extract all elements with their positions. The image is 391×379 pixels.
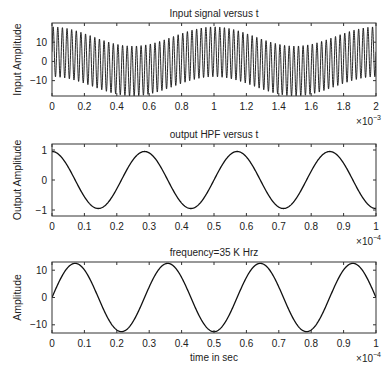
input-signal-xtick-label: 1.2	[239, 101, 253, 112]
input-signal-xtick-label: 1.6	[304, 101, 318, 112]
frequency-35k-ytick-label: 0	[41, 292, 47, 303]
output-hpf-xtick-label: 1	[373, 221, 379, 232]
input-signal-xtick-label: 0.8	[175, 101, 189, 112]
frequency-35k-xtick-label: 0.8	[304, 338, 318, 349]
frequency-35k-xtick-label: 0	[49, 338, 55, 349]
input-signal-title: Input signal versus t	[170, 8, 259, 19]
frequency-35k-x-exponent: ×10−4	[356, 351, 381, 364]
input-signal-xtick-label: 1.4	[272, 101, 286, 112]
frequency-35k-ytick-label: −10	[30, 319, 47, 330]
frequency-35k-xtick-label: 0.7	[272, 338, 286, 349]
output-hpf-x-exponent: ×10−4	[356, 234, 381, 247]
frequency-35k-xtick-label: 0.4	[175, 338, 189, 349]
output-hpf-ytick-label: −1	[36, 205, 48, 216]
output-hpf-title: output HPF versus t	[170, 129, 259, 140]
output-hpf-ytick-label: 1	[41, 145, 47, 156]
output-hpf-xtick-label: 0.2	[110, 221, 124, 232]
frequency-35k-title: frequency=35 K Hrz	[170, 247, 259, 258]
output-hpf-curve	[52, 152, 376, 209]
input-signal-xtick-label: 1	[211, 101, 217, 112]
output-hpf-xtick-label: 0.1	[77, 221, 91, 232]
frequency-35k-xtick-label: 0.3	[142, 338, 156, 349]
frequency-35k-xlabel: time in sec	[190, 352, 238, 363]
output-hpf-xtick-label: 0.9	[337, 221, 351, 232]
frequency-35k-xtick-label: 0.2	[110, 338, 124, 349]
input-signal-ytick-label: −10	[30, 75, 47, 86]
frequency-35k-xtick-label: 0.5	[207, 338, 221, 349]
output-hpf-axes: 00.10.20.30.40.50.60.70.80.91−101output …	[11, 129, 381, 247]
output-hpf-xtick-label: 0.8	[304, 221, 318, 232]
input-signal-xtick-label: 0.4	[110, 101, 124, 112]
output-hpf-xtick-label: 0.3	[142, 221, 156, 232]
input-signal-xtick-label: 0	[49, 101, 55, 112]
input-signal-axes: 00.20.40.60.811.21.41.61.82−10010Input s…	[11, 8, 381, 127]
output-hpf-xtick-label: 0.5	[207, 221, 221, 232]
output-hpf-xtick-label: 0.7	[272, 221, 286, 232]
input-signal-xtick-label: 0.2	[77, 101, 91, 112]
input-signal-x-exponent: ×10−3	[356, 114, 381, 127]
frequency-35k-xtick-label: 0.9	[337, 338, 351, 349]
input-signal-xtick-label: 2	[373, 101, 379, 112]
frequency-35k-ylabel: Amplitude	[11, 274, 23, 321]
output-hpf-xtick-label: 0	[49, 221, 55, 232]
input-signal-ylabel: Input Amplitude	[11, 23, 23, 96]
frequency-35k-axes-box	[52, 262, 376, 333]
input-signal-ytick-label: 0	[41, 56, 47, 67]
output-hpf-ylabel: Output Amplitude	[11, 140, 23, 221]
input-signal-curve	[52, 27, 376, 96]
output-hpf-xtick-label: 0.6	[239, 221, 253, 232]
input-signal-xtick-label: 1.8	[337, 101, 351, 112]
frequency-35k-ytick-label: 10	[36, 265, 48, 276]
frequency-35k-curve	[52, 263, 376, 331]
frequency-35k-axes: 00.10.20.30.40.50.60.70.80.91−10010frequ…	[11, 247, 381, 364]
output-hpf-ytick-label: 0	[41, 175, 47, 186]
frequency-35k-xtick-label: 0.6	[239, 338, 253, 349]
input-signal-xtick-label: 0.6	[142, 101, 156, 112]
input-signal-ytick-label: 10	[36, 37, 48, 48]
frequency-35k-xtick-label: 0.1	[77, 338, 91, 349]
output-hpf-xtick-label: 0.4	[175, 221, 189, 232]
figure: 00.20.40.60.811.21.41.61.82−10010Input s…	[0, 0, 391, 379]
frequency-35k-xtick-label: 1	[373, 338, 379, 349]
